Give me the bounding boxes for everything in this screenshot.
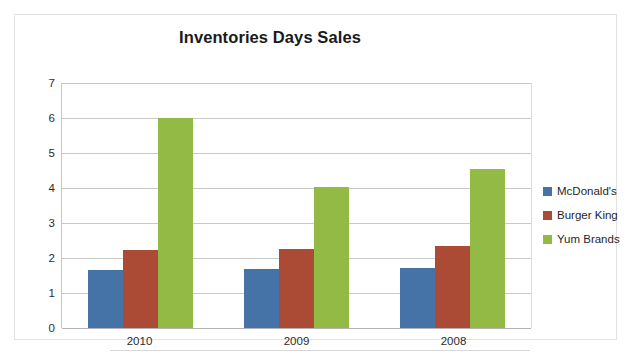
legend-item-label: Burger King — [557, 209, 618, 221]
y-axis-tick-label: 4 — [27, 182, 55, 194]
bar-groups — [62, 83, 531, 328]
bar[interactable] — [435, 246, 470, 328]
legend-item[interactable]: Yum Brands — [543, 227, 627, 251]
bar-group — [218, 83, 374, 328]
legend-item[interactable]: Burger King — [543, 203, 627, 227]
bar[interactable] — [279, 249, 314, 328]
bar[interactable] — [470, 169, 505, 328]
divider — [110, 350, 530, 351]
bar[interactable] — [88, 270, 123, 328]
legend-item-label: Yum Brands — [557, 233, 620, 245]
legend-item[interactable]: McDonald's — [543, 179, 627, 203]
y-axis-tick-label: 2 — [27, 252, 55, 264]
y-axis-tick-label: 3 — [27, 217, 55, 229]
y-axis-tick-label: 1 — [27, 287, 55, 299]
y-axis-tick-label: 0 — [27, 322, 55, 334]
y-axis-tick-label: 7 — [27, 77, 55, 89]
bar[interactable] — [400, 268, 435, 328]
bar-group — [62, 83, 218, 328]
plot-area — [61, 83, 532, 328]
bars — [218, 83, 374, 328]
legend-swatch-icon — [543, 235, 552, 244]
bar[interactable] — [158, 118, 193, 328]
y-axis-tick-label: 6 — [27, 112, 55, 124]
bar[interactable] — [123, 250, 158, 328]
bar-group — [375, 83, 531, 328]
chart-legend: McDonald'sBurger KingYum Brands — [543, 179, 627, 251]
legend-item-label: McDonald's — [557, 185, 617, 197]
chart-title: Inventories Days Sales — [15, 28, 525, 47]
chart-frame: Inventories Days Sales 76543210 20102009… — [14, 14, 617, 340]
y-axis-tick-labels: 76543210 — [21, 83, 55, 328]
chart-page: Inventories Days Sales 76543210 20102009… — [0, 0, 631, 356]
bar[interactable] — [244, 269, 279, 328]
legend-swatch-icon — [543, 211, 552, 220]
y-axis-tick-label: 5 — [27, 147, 55, 159]
bars — [62, 83, 218, 328]
legend-swatch-icon — [543, 187, 552, 196]
bar[interactable] — [314, 187, 349, 328]
gridline — [62, 328, 531, 329]
bars — [375, 83, 531, 328]
